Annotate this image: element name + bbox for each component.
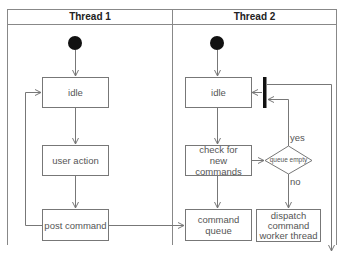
t1-post-command-node: post command [42, 209, 109, 241]
t2-decision-label: queue empty [266, 156, 311, 163]
t2-dispatch-label-line-3: worker thread [259, 231, 317, 241]
t2-command-queue-label: command queue [186, 214, 251, 236]
t1-user-action-node: user action [42, 145, 109, 176]
t2-command-queue-node: command queue [185, 209, 252, 241]
t1-idle-node: idle [42, 77, 109, 108]
t2-idle-label: idle [211, 87, 226, 98]
t2-check-label-line-1: check for [199, 144, 238, 155]
t2-check-label-line-2: new commands [186, 155, 251, 177]
t1-idle-label: idle [68, 87, 83, 98]
t2-dispatch-node: dispatch command worker thread [256, 209, 321, 242]
t2-join-bar [263, 77, 267, 108]
activity-diagram: Thread 1 Thread 2 idle user action post … [0, 0, 344, 256]
guard-no-label: no [290, 176, 301, 187]
t1-initial-node [68, 36, 82, 50]
t1-user-action-label: user action [52, 155, 98, 166]
lane-title-thread-2: Thread 2 [173, 10, 336, 24]
t2-dispatch-label-line-1: dispatch [271, 211, 306, 221]
guard-yes-label: yes [290, 132, 305, 143]
lane-title-thread-1: Thread 1 [8, 10, 172, 24]
t2-check-node: check for new commands [185, 145, 252, 176]
t1-post-command-label: post command [44, 220, 106, 231]
t2-dispatch-label-line-2: command [268, 221, 310, 231]
t2-idle-node: idle [185, 77, 252, 108]
t2-initial-node [210, 36, 224, 50]
